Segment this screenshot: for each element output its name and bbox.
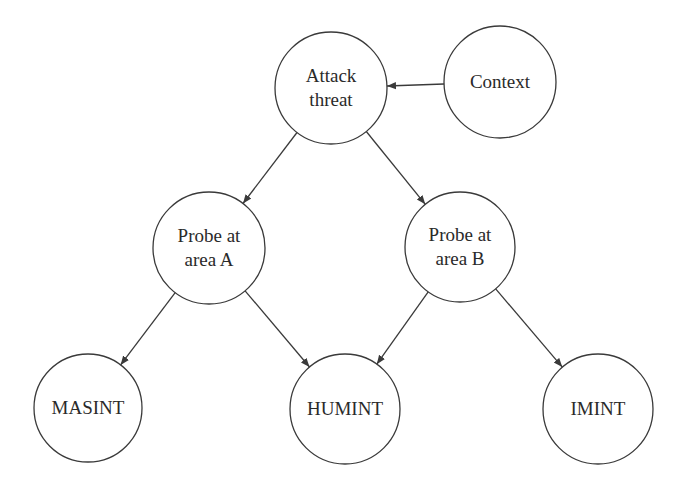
node-circle bbox=[405, 192, 515, 302]
edge-attack-to-probeA bbox=[243, 133, 297, 204]
node-circle bbox=[275, 32, 387, 144]
node-humint: HUMINT bbox=[290, 354, 400, 464]
node-probeA: Probe atarea A bbox=[153, 192, 265, 304]
node-imint: IMINT bbox=[543, 354, 653, 464]
node-label: Probe at bbox=[178, 225, 242, 246]
edge-probeB-to-imint bbox=[496, 289, 563, 367]
node-label: IMINT bbox=[571, 398, 626, 419]
edge-probeB-to-humint bbox=[377, 292, 428, 364]
node-label: Probe at bbox=[429, 224, 493, 245]
node-label: MASINT bbox=[52, 397, 125, 418]
edge-context-to-attack bbox=[387, 84, 444, 86]
nodes: AttackthreatContextProbe atarea AProbe a… bbox=[34, 26, 653, 464]
node-label: threat bbox=[309, 89, 353, 110]
node-label: Context bbox=[470, 71, 531, 92]
bayesian-network-diagram: AttackthreatContextProbe atarea AProbe a… bbox=[0, 0, 688, 490]
node-probeB: Probe atarea B bbox=[405, 192, 515, 302]
node-attack: Attackthreat bbox=[275, 32, 387, 144]
node-context: Context bbox=[444, 26, 556, 138]
node-label: area A bbox=[184, 249, 233, 270]
edge-probeA-to-humint bbox=[245, 291, 309, 367]
edge-attack-to-probeB bbox=[366, 132, 425, 205]
node-circle bbox=[153, 192, 265, 304]
node-label: Attack bbox=[306, 65, 357, 86]
node-masint: MASINT bbox=[34, 354, 142, 462]
node-label: area B bbox=[435, 248, 484, 269]
node-label: HUMINT bbox=[307, 398, 383, 419]
edge-probeA-to-masint bbox=[121, 293, 176, 365]
